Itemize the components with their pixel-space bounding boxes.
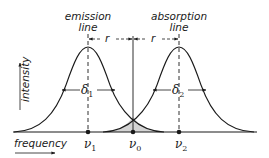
delta2-label: δ2 xyxy=(172,83,184,99)
nu0-point xyxy=(131,130,136,135)
nu2-point xyxy=(177,130,182,135)
emission-label-2: line xyxy=(79,21,98,33)
intensity-label: intensity xyxy=(19,56,31,102)
frequency-label: frequency xyxy=(14,137,68,149)
emission-absorption-diagram: r r δ1 δ2 emission line absorption line … xyxy=(0,0,269,158)
nu1-label: ν1 xyxy=(84,137,96,153)
r-left-label: r xyxy=(105,32,110,44)
nu2-label: ν2 xyxy=(175,137,187,153)
delta1-label: δ1 xyxy=(81,83,93,99)
nu1-point xyxy=(86,130,91,135)
nu0-label: ν0 xyxy=(129,137,141,153)
r-right-label: r xyxy=(151,32,156,44)
absorption-label-2: line xyxy=(170,21,189,33)
